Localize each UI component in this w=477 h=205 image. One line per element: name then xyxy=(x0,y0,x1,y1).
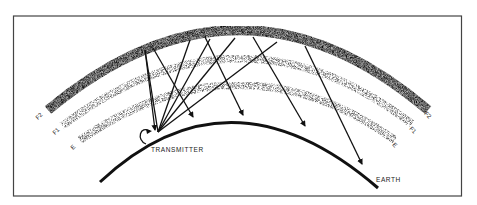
diagram-frame xyxy=(14,16,462,196)
layer-e xyxy=(80,85,395,140)
label-f2-right: F2 xyxy=(423,110,433,120)
label-e-left: E xyxy=(69,144,76,151)
label-f1-left: F1 xyxy=(51,126,61,136)
label-f2-left: F2 xyxy=(34,111,44,121)
label-f1-right: F1 xyxy=(408,125,418,135)
earth-label: EARTH xyxy=(376,176,401,183)
transmitter-label: TRANSMITTER xyxy=(151,146,204,153)
propagation-diagram: F2 F1 E F2 F1 E TRANSMITTER EARTH xyxy=(0,0,477,205)
